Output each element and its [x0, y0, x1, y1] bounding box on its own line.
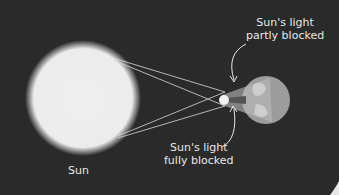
fully-blocked-label: Sun's light fully blocked: [164, 141, 234, 167]
moon: [219, 95, 229, 105]
eclipse-diagram: Sun Sun's light partly blocked Sun's lig…: [0, 0, 339, 195]
partly-blocked-label: Sun's light partly blocked: [246, 16, 324, 42]
fully-blocked-line2: fully blocked: [164, 154, 234, 167]
page-corner: [330, 181, 339, 195]
arrow-partly-blocked: [232, 44, 246, 80]
sun-label: Sun: [68, 164, 89, 177]
sun: [25, 40, 141, 156]
fully-blocked-line1: Sun's light: [164, 141, 234, 154]
partly-blocked-line1: Sun's light: [246, 16, 324, 29]
partly-blocked-line2: partly blocked: [246, 29, 324, 42]
